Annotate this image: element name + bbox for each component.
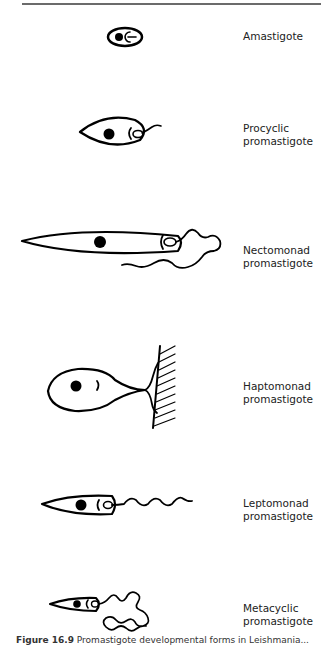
leishmania-stages-diagram: [0, 0, 321, 645]
label-procyclic: Procyclic promastigote: [243, 122, 313, 148]
leptomonad-promastigote-icon: [42, 496, 192, 515]
metacyclic-promastigote-icon: [50, 592, 148, 631]
label-procyclic-line1: Procyclic: [243, 122, 313, 135]
amastigote-icon: [108, 28, 142, 46]
figure-caption-text: Promastigote developmental forms in Leis…: [77, 635, 309, 645]
label-nectomonad-line1: Nectomonad: [243, 244, 313, 257]
label-haptomonad-line2: promastigote: [243, 393, 313, 406]
label-haptomonad-line1: Haptomonad: [243, 380, 313, 393]
haptomonad-promastigote-icon: [48, 346, 175, 428]
label-metacyclic: Metacyclic promastigote: [243, 602, 313, 628]
figure-caption-number: Figure 16.9: [16, 635, 74, 645]
label-nectomonad: Nectomonad promastigote: [243, 244, 313, 270]
label-metacyclic-line1: Metacyclic: [243, 602, 313, 615]
label-amastigote-line1: Amastigote: [243, 30, 303, 43]
label-nectomonad-line2: promastigote: [243, 257, 313, 270]
label-haptomonad: Haptomonad promastigote: [243, 380, 313, 406]
procyclic-promastigote-icon: [80, 118, 161, 145]
label-leptomonad-line2: promastigote: [243, 510, 313, 523]
label-leptomonad: Leptomonad promastigote: [243, 497, 313, 523]
label-procyclic-line2: promastigote: [243, 135, 313, 148]
nectomonad-promastigote-icon: [22, 230, 220, 268]
label-metacyclic-line2: promastigote: [243, 615, 313, 628]
label-amastigote: Amastigote: [243, 30, 303, 43]
figure-caption: Figure 16.9 Promastigote developmental f…: [16, 635, 309, 645]
label-leptomonad-line1: Leptomonad: [243, 497, 313, 510]
